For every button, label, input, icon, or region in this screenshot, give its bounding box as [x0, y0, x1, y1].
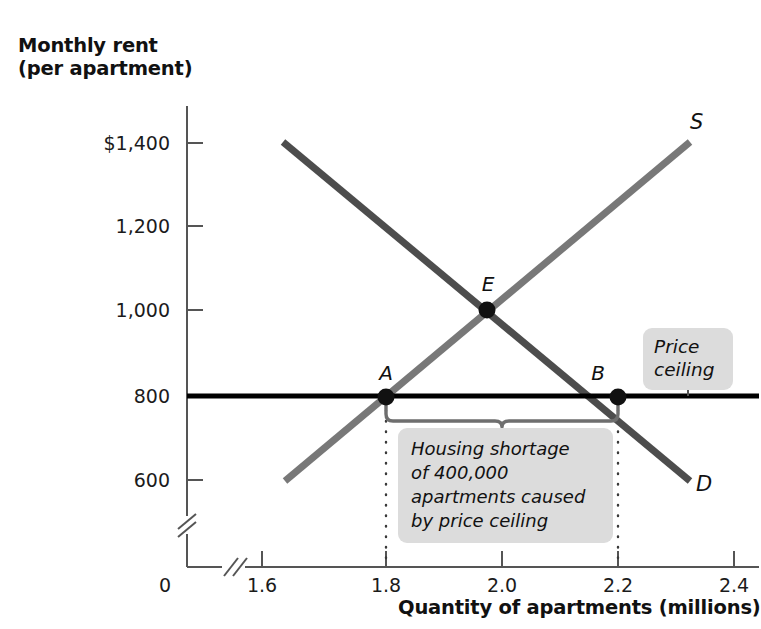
point-a-label: A: [379, 362, 393, 386]
housing-shortage-callout-line-4: by price ceiling: [411, 509, 603, 533]
point-b-label: B: [591, 362, 605, 386]
y-tick-label-600: 600: [58, 469, 170, 491]
y-axis-break-icon: [178, 514, 196, 537]
x-tick-label-2-2: 2.2: [603, 574, 633, 596]
point-b-marker: [610, 389, 627, 406]
point-e-label: E: [482, 273, 495, 297]
point-e-marker: [479, 302, 496, 319]
x-tick-label-1-6: 1.6: [247, 574, 277, 596]
price-ceiling-callout-line-2: ceiling: [654, 358, 724, 381]
price-ceiling-callout-line-1: Price: [654, 335, 724, 358]
y-tick-label-1200: 1,200: [58, 215, 170, 237]
y-axis-ticks: [187, 143, 203, 480]
housing-shortage-callout-line-2: of 400,000: [411, 461, 603, 485]
x-axis-break-icon: [224, 558, 247, 576]
y-tick-label-1400: $1,400: [58, 132, 170, 154]
x-tick-label-1-8: 1.8: [371, 574, 401, 596]
demand-curve-label: D: [696, 472, 712, 497]
x-tick-label-0: 0: [159, 574, 171, 596]
housing-shortage-callout-line-3: apartments caused: [411, 485, 603, 509]
point-a-marker: [378, 389, 395, 406]
x-axis-title: Quantity of apartments (millions): [398, 596, 761, 619]
y-axis-title: Monthly rent(per apartment): [18, 34, 192, 80]
y-tick-label-1000: 1,000: [58, 299, 170, 321]
supply-curve-label: S: [690, 110, 703, 135]
housing-shortage-callout: Housing shortage of 400,000 apartments c…: [398, 428, 613, 543]
shortage-brace: [386, 400, 618, 427]
housing-shortage-callout-line-1: Housing shortage: [411, 437, 603, 461]
x-axis-ticks: [262, 551, 734, 567]
price-ceiling-callout: Price ceiling: [643, 328, 733, 390]
y-tick-label-800: 800: [58, 385, 170, 407]
x-tick-label-2-0: 2.0: [487, 574, 517, 596]
x-tick-label-2-4: 2.4: [719, 574, 749, 596]
